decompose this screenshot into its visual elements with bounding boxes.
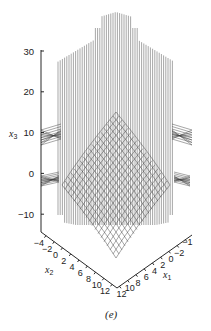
surface-plot: 3020100−10 −4−2024681012 121086420−2−1 x… (0, 0, 211, 331)
x1-tick-label: 10 (125, 283, 135, 293)
wireframe-mesh (62, 112, 170, 258)
x1-tick-label: 6 (144, 272, 149, 282)
x2-tick-label: 6 (78, 268, 83, 278)
x2-tick-label: 12 (100, 286, 110, 296)
x1-tick-label: −1 (182, 237, 192, 247)
mesh-line (104, 128, 158, 201)
x1-tick-label: 0 (168, 254, 173, 264)
mesh-line (101, 132, 155, 205)
x1-tick-mark (128, 280, 129, 282)
wing-line (174, 182, 190, 186)
wing-line (174, 172, 190, 176)
x2-tick-label: 8 (86, 274, 91, 284)
x3-ticks: 3020100−10 (18, 46, 44, 220)
wing-line (172, 139, 192, 145)
x3-axis-label: x3 (8, 128, 17, 140)
x2-tick-mark (94, 272, 96, 274)
x2-tick-mark (102, 278, 104, 280)
side-lattice-wings (41, 124, 192, 186)
wing-line (172, 127, 192, 133)
x1-tick-label: −2 (174, 248, 184, 258)
x1-tick-mark (161, 257, 163, 259)
x2-tick-label: 4 (69, 262, 74, 272)
mesh-line (68, 120, 122, 193)
x2-axis-label: x2 (44, 264, 53, 276)
x2-tick-mark (111, 284, 113, 286)
x1-tick-mark (144, 269, 146, 271)
wing-line (41, 172, 59, 176)
x2-tick-label: 2 (61, 256, 66, 266)
x2-tick-mark (61, 248, 63, 250)
mesh-line (71, 124, 125, 197)
x2-tick-mark (86, 266, 88, 268)
x1-ticks: 121086420−2−1 (116, 237, 192, 300)
x2-tick-mark (78, 260, 80, 262)
x3-tick-label: −10 (18, 209, 34, 220)
x2-tick-label: −2 (42, 244, 52, 254)
x1-tick-mark (136, 275, 138, 277)
x1-tick-mark (169, 251, 171, 253)
figure-caption: (e) (105, 308, 118, 321)
x3-tick-label: 0 (29, 168, 34, 179)
x2-tick-label: 0 (53, 250, 58, 260)
surface-plot-figure: 3020100−10 −4−2024681012 121086420−2−1 x… (0, 0, 211, 331)
x3-tick-label: 10 (23, 127, 34, 138)
x1-tick-mark (177, 245, 179, 247)
wing-line (41, 182, 59, 186)
x1-tick-label: 4 (152, 266, 157, 276)
wing-line (172, 124, 192, 130)
x1-tick-label: 8 (135, 278, 140, 288)
x3-tick-label: 20 (23, 86, 34, 97)
x1-tick-mark (119, 286, 121, 288)
x2-tick-mark (69, 254, 71, 256)
x2-tick-mark (53, 242, 55, 244)
x1-axis-line (117, 235, 192, 288)
x1-axis-label: x1 (162, 269, 171, 281)
x3-tick-label: 30 (23, 46, 34, 57)
x2-tick-mark (44, 236, 46, 238)
x1-tick-mark (152, 263, 154, 265)
